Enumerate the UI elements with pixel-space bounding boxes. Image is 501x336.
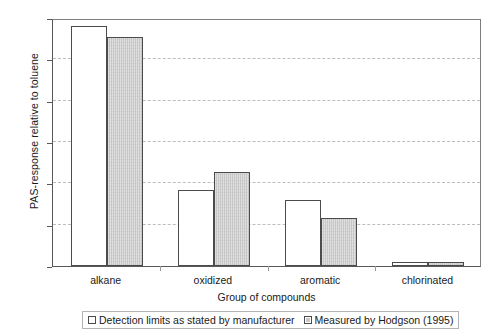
bar-aromatic-series-1 xyxy=(321,218,357,266)
chart-legend: Detection limits as stated by manufactur… xyxy=(82,311,459,329)
legend-swatch-icon xyxy=(304,316,312,324)
legend-entry-0[interactable]: Detection limits as stated by manufactur… xyxy=(88,314,295,326)
y-tick-mark xyxy=(47,267,52,268)
x-category-label-oxidized: oxidized xyxy=(194,274,233,286)
bar-oxidized-series-0 xyxy=(178,190,214,266)
x-axis-tick xyxy=(268,266,269,271)
bar-chlorinated-series-1 xyxy=(428,262,464,266)
x-axis-tick xyxy=(375,266,376,271)
y-tick-mark xyxy=(47,102,52,103)
x-category-label-alkane: alkane xyxy=(90,274,121,286)
x-axis-title: Group of compounds xyxy=(52,291,481,303)
bar-aromatic-series-0 xyxy=(285,200,321,266)
bar-alkane-series-1 xyxy=(107,37,143,266)
legend-label: Measured by Hodgson (1995) xyxy=(315,314,454,326)
x-category-label-aromatic: aromatic xyxy=(300,274,340,286)
y-axis-title: PAS-response relative to toluene xyxy=(28,11,40,251)
legend-label: Detection limits as stated by manufactur… xyxy=(99,314,295,326)
bar-alkane-series-0 xyxy=(71,26,107,266)
legend-swatch-icon xyxy=(88,316,96,324)
x-axis-tick xyxy=(160,266,161,271)
x-category-label-chlorinated: chlorinated xyxy=(402,274,453,286)
y-tick-mark xyxy=(47,19,52,20)
y-tick-mark xyxy=(47,143,52,144)
bar-chart: PAS-response relative to toluene Group o… xyxy=(0,0,501,336)
y-tick-mark xyxy=(47,184,52,185)
y-tick-mark xyxy=(47,60,52,61)
y-tick-mark xyxy=(47,226,52,227)
plot-area xyxy=(52,19,481,267)
bar-oxidized-series-1 xyxy=(214,172,250,266)
bar-chlorinated-series-0 xyxy=(392,262,428,266)
legend-entry-1[interactable]: Measured by Hodgson (1995) xyxy=(304,314,454,326)
